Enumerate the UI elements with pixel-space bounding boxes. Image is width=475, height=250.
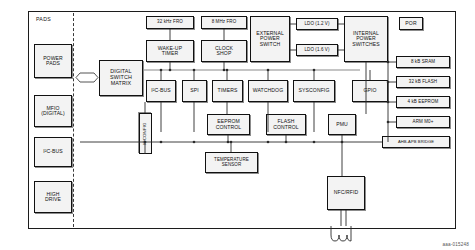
block-watchdog[interactable]: WATCHDOG: [248, 80, 288, 102]
block-external-power-switch[interactable]: EXTERNAL POWER SWITCH: [250, 16, 290, 62]
block-arm-m0plus[interactable]: ARM M0+: [396, 116, 450, 128]
block-i2c-bus[interactable]: I²C-BUS: [146, 80, 176, 102]
block-eeprom-control-label: EEPROM CONTROL: [216, 119, 242, 130]
antenna-coil-icon: [327, 226, 355, 242]
block-pmu-label: PMU: [336, 122, 348, 127]
block-ioconfig[interactable]: IOCONFIG: [139, 113, 152, 154]
block-gpio-label: GPIO: [363, 88, 376, 93]
block-sram-8kb[interactable]: 8 kB SRAM: [396, 56, 450, 68]
block-nfc-rfid-label: NFC/RFID: [334, 190, 359, 195]
block-ldo-1v6[interactable]: LDO (1.6 V): [296, 44, 338, 56]
block-temperature-sensor[interactable]: TEMPERATURE SENSOR: [205, 152, 258, 173]
block-internal-power-switches-label: INTERNAL POWER SWITCHES: [352, 31, 380, 47]
block-ldo-1v2[interactable]: LDO (1.2 V): [296, 18, 338, 30]
bidirectional-arrow-icon: [75, 72, 99, 83]
block-spi[interactable]: SPI: [182, 80, 207, 102]
block-temperature-sensor-label: TEMPERATURE SENSOR: [214, 158, 249, 168]
block-timers-label: TIMERS: [218, 88, 238, 93]
block-flash-control-label: FLASH CONTROL: [273, 119, 299, 130]
block-fro-32khz-label: 32 kHz FRO: [157, 20, 183, 25]
block-fro-32khz[interactable]: 32 kHz FRO: [146, 16, 194, 29]
block-i2c-bus-label: I²C-BUS: [151, 88, 171, 93]
block-mfio-digital-label: MFIO (DIGITAL): [41, 106, 65, 117]
pads-divider: [73, 13, 74, 227]
block-eeprom-control[interactable]: EEPROM CONTROL: [207, 114, 250, 135]
block-i2c-bus-pad-label: I²C-BUS: [43, 149, 63, 154]
block-high-drive-label: HIGH DRIVE: [45, 192, 61, 203]
block-nfc-rfid[interactable]: NFC/RFID: [327, 176, 365, 210]
block-digital-switch-matrix-label: DIGITAL SWITCH MATRIX: [110, 69, 132, 86]
block-ldo-1v2-label: LDO (1.2 V): [304, 22, 329, 27]
block-sysconfig[interactable]: SYSCONFIG: [293, 80, 335, 102]
block-power-pads-label: POWER PADS: [43, 56, 63, 67]
block-timers[interactable]: TIMERS: [212, 80, 243, 102]
block-gpio[interactable]: GPIO: [352, 80, 388, 102]
block-wakeup-timer-label: WAKE-UP TIMER: [158, 46, 182, 57]
pads-column-label: PADS: [36, 16, 51, 22]
block-digital-switch-matrix[interactable]: DIGITAL SWITCH MATRIX: [99, 60, 143, 96]
block-watchdog-label: WATCHDOG: [253, 88, 284, 93]
block-flash-control[interactable]: FLASH CONTROL: [266, 114, 306, 135]
block-diagram: PADS POWER PADS MFIO (DIGITAL) I²C-BUS H…: [0, 0, 475, 250]
block-external-power-switch-label: EXTERNAL POWER SWITCH: [256, 31, 284, 47]
block-por-label: POR: [405, 21, 416, 26]
block-clock-shop[interactable]: CLOCK SHOP: [201, 40, 247, 62]
block-spi-label: SPI: [190, 88, 199, 93]
block-internal-power-switches[interactable]: INTERNAL POWER SWITCHES: [344, 16, 388, 62]
block-high-drive[interactable]: HIGH DRIVE: [34, 181, 72, 213]
block-ahb-apb-bridge[interactable]: AHB-APB BRIDGE: [382, 136, 450, 148]
block-clock-shop-label: CLOCK SHOP: [215, 46, 233, 57]
block-eeprom-4kb-label: 4 kB EEPROM: [408, 100, 439, 105]
block-mfio-digital[interactable]: MFIO (DIGITAL): [34, 95, 72, 127]
block-ahb-apb-bridge-label: AHB-APB BRIDGE: [398, 140, 434, 144]
block-fro-8mhz-label: 8 MHz FRO: [212, 20, 237, 25]
block-wakeup-timer[interactable]: WAKE-UP TIMER: [146, 40, 194, 62]
figure-id-label: aaa-015248: [442, 242, 469, 247]
block-fro-8mhz[interactable]: 8 MHz FRO: [201, 16, 247, 29]
block-flash-32kb[interactable]: 32 kB FLASH: [396, 76, 450, 88]
block-i2c-bus-pad[interactable]: I²C-BUS: [34, 137, 72, 167]
block-sysconfig-label: SYSCONFIG: [299, 88, 330, 93]
block-ioconfig-label: IOCONFIG: [143, 122, 148, 145]
block-flash-32kb-label: 32 kB FLASH: [409, 80, 437, 85]
block-arm-m0plus-label: ARM M0+: [413, 120, 434, 125]
block-power-pads[interactable]: POWER PADS: [34, 44, 72, 78]
block-eeprom-4kb[interactable]: 4 kB EEPROM: [396, 96, 450, 108]
block-pmu[interactable]: PMU: [328, 114, 356, 135]
block-sram-8kb-label: 8 kB SRAM: [411, 60, 435, 65]
block-ldo-1v6-label: LDO (1.6 V): [304, 48, 329, 53]
block-por[interactable]: POR: [399, 17, 423, 30]
